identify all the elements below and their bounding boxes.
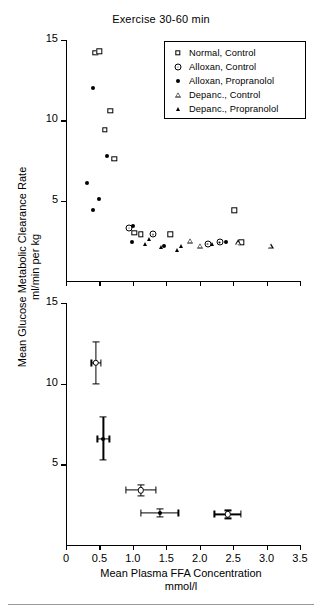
y-tick bbox=[61, 40, 66, 41]
error-cap-bottom bbox=[93, 383, 100, 384]
data-point bbox=[235, 240, 241, 245]
data-point bbox=[105, 154, 109, 158]
error-cap-left bbox=[214, 511, 215, 518]
x-tick-label: 1.0 bbox=[118, 552, 148, 564]
x-axis-label: Mean Plasma FFA Concentration mmol/l bbox=[40, 567, 322, 593]
x-tick bbox=[133, 281, 134, 286]
y-tick-label: 15 bbox=[28, 295, 58, 307]
data-point bbox=[168, 232, 173, 237]
error-cap-right bbox=[241, 511, 242, 518]
y-tick bbox=[61, 120, 66, 121]
x-tick-label: 3.5 bbox=[285, 552, 315, 564]
x-tick-label: 2.5 bbox=[218, 552, 248, 564]
legend-item[interactable]: Depanc., Propranolol bbox=[165, 102, 305, 116]
data-point bbox=[143, 242, 147, 246]
legend-item[interactable]: Depanc., Control bbox=[165, 88, 305, 102]
data-point bbox=[107, 108, 112, 113]
legend-marker-slot bbox=[165, 74, 189, 88]
x-tick bbox=[66, 545, 67, 550]
data-point bbox=[97, 197, 101, 201]
data-point bbox=[210, 242, 214, 246]
legend-marker-slot bbox=[165, 46, 189, 60]
y-tick-label: 10 bbox=[28, 376, 58, 388]
error-cap-left bbox=[140, 509, 141, 516]
x-axis-label-line1: Mean Plasma FFA Concentration bbox=[40, 567, 322, 580]
x-tick bbox=[267, 545, 268, 550]
chart-title: Exercise 30-60 min bbox=[0, 13, 322, 25]
data-point bbox=[138, 232, 143, 237]
x-axis-line bbox=[66, 281, 300, 282]
legend-marker-slot bbox=[165, 102, 189, 116]
x-tick bbox=[166, 281, 167, 286]
legend-label: Alloxan, Control bbox=[189, 60, 256, 74]
legend-label: Depanc., Propranolol bbox=[189, 102, 278, 116]
error-cap-right bbox=[100, 359, 101, 366]
error-cap-left bbox=[126, 487, 127, 494]
error-cap-top bbox=[156, 508, 163, 509]
mean-point bbox=[225, 511, 231, 517]
x-tick bbox=[233, 545, 234, 550]
error-cap-top bbox=[100, 416, 107, 417]
data-point bbox=[131, 224, 135, 228]
error-cap-bottom bbox=[224, 518, 231, 519]
error-cap-left bbox=[97, 435, 98, 442]
error-cap-bottom bbox=[156, 516, 163, 517]
y-tick bbox=[61, 464, 66, 465]
y-tick bbox=[61, 384, 66, 385]
data-point bbox=[111, 156, 116, 161]
data-point bbox=[224, 240, 228, 244]
x-tick bbox=[267, 281, 268, 286]
data-point bbox=[130, 240, 134, 244]
x-tick bbox=[99, 281, 100, 286]
error-cap-bottom bbox=[100, 460, 107, 461]
mean-point bbox=[101, 437, 105, 441]
legend-item[interactable]: Alloxan, Control bbox=[165, 60, 305, 74]
x-tick bbox=[200, 545, 201, 550]
y-tick-label: 5 bbox=[28, 193, 58, 205]
y-axis-line bbox=[66, 303, 67, 545]
data-point bbox=[197, 243, 203, 248]
data-point bbox=[147, 237, 151, 241]
y-tick-label: 15 bbox=[28, 32, 58, 44]
y-tick bbox=[61, 303, 66, 304]
y-axis-label-line1: Mean Glucose Metabolic Clearance Rate bbox=[16, 142, 29, 392]
legend-marker-open-triangle bbox=[175, 93, 181, 98]
error-cap-top bbox=[93, 341, 100, 342]
y-tick-label: 10 bbox=[28, 112, 58, 124]
x-tick bbox=[99, 545, 100, 550]
error-cap-top bbox=[137, 484, 144, 485]
data-point bbox=[216, 239, 223, 246]
legend-marker-filled-triangle bbox=[176, 107, 180, 111]
x-tick bbox=[133, 545, 134, 550]
legend-label: Alloxan, Propranolol bbox=[189, 74, 274, 88]
legend-item[interactable]: Normal, Control bbox=[165, 46, 305, 60]
data-point bbox=[268, 243, 274, 248]
y-axis-label-line2: ml/min per kg bbox=[29, 142, 42, 392]
x-tick bbox=[200, 281, 201, 286]
y-tick bbox=[61, 201, 66, 202]
figure: Exercise 30-60 min Mean Glucose Metaboli… bbox=[0, 0, 322, 616]
legend-marker-open-square bbox=[175, 50, 180, 55]
x-tick-label: 0 bbox=[51, 552, 81, 564]
legend-marker-slot bbox=[165, 88, 189, 102]
data-point bbox=[97, 49, 102, 54]
error-cap-right bbox=[155, 487, 156, 494]
legend-item[interactable]: Alloxan, Propranolol bbox=[165, 74, 305, 88]
x-tick bbox=[66, 281, 67, 286]
x-tick bbox=[166, 545, 167, 550]
y-axis-label: Mean Glucose Metabolic Clearance Rate ml… bbox=[16, 142, 42, 392]
x-axis-line bbox=[66, 545, 300, 546]
data-point bbox=[85, 181, 89, 185]
data-point bbox=[179, 244, 183, 248]
legend-label: Depanc., Control bbox=[189, 88, 260, 102]
data-point bbox=[175, 248, 179, 252]
data-point bbox=[131, 230, 136, 235]
mean-point bbox=[138, 487, 144, 493]
x-tick bbox=[300, 545, 301, 550]
data-point bbox=[187, 238, 193, 243]
x-tick bbox=[233, 281, 234, 286]
error-cap-left bbox=[91, 359, 92, 366]
x-tick-label: 2.0 bbox=[185, 552, 215, 564]
x-tick-label: 3.0 bbox=[252, 552, 282, 564]
footer-rule bbox=[8, 604, 314, 605]
